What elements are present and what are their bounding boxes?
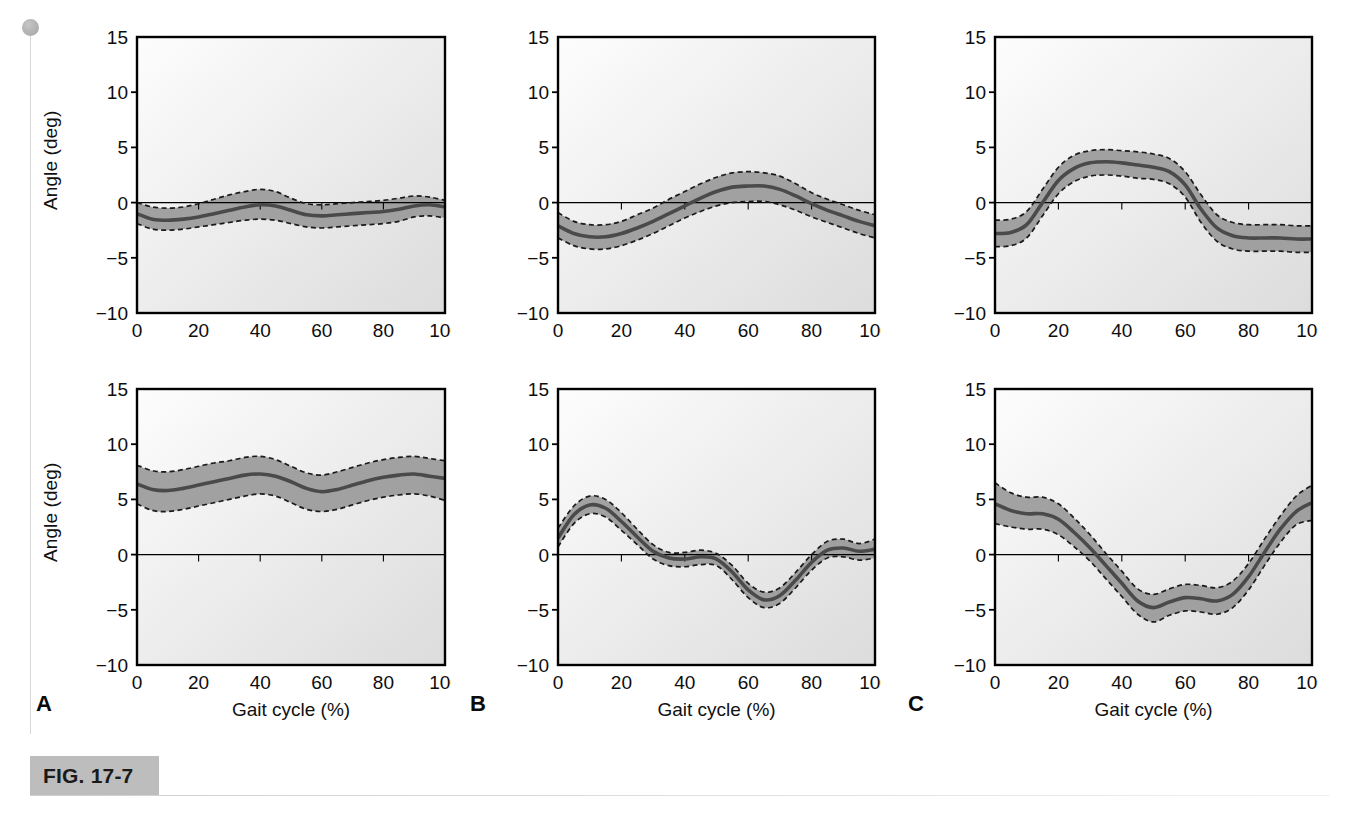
x-tick-label: 60	[738, 672, 759, 693]
panel-b-top: −10−5051015020406080100	[506, 31, 881, 347]
x-tick-label: 0	[553, 672, 564, 693]
panel-letter-a: A	[36, 691, 52, 717]
plot-panel-b-bottom: −10−5051015020406080100	[506, 383, 881, 699]
footer-rule	[30, 795, 1330, 796]
x-tick-label: 80	[373, 320, 394, 341]
y-tick-label: −5	[527, 600, 549, 621]
x-tick-label: 60	[738, 320, 759, 341]
x-tick-label: 40	[674, 320, 695, 341]
y-tick-label: 0	[975, 545, 986, 566]
x-tick-label: 40	[250, 672, 271, 693]
plot-panel-a-top: −10−5051015020406080100	[85, 31, 451, 347]
y-axis-label-bottom: Angle (deg)	[40, 463, 62, 562]
x-tick-label: 60	[311, 320, 332, 341]
y-tick-label: 10	[528, 434, 549, 455]
y-tick-label: −5	[964, 600, 986, 621]
y-tick-label: −10	[96, 655, 128, 676]
y-tick-label: 10	[965, 82, 986, 103]
x-tick-label: 20	[611, 320, 632, 341]
x-tick-label: 100	[1296, 672, 1318, 693]
x-tick-label: 100	[859, 672, 881, 693]
x-tick-label: 40	[1111, 320, 1132, 341]
y-tick-label: 5	[117, 489, 128, 510]
y-tick-label: −10	[517, 303, 549, 324]
panel-a-bottom: −10−5051015020406080100	[85, 383, 451, 699]
y-tick-label: 5	[117, 137, 128, 158]
y-tick-label: −5	[106, 248, 128, 269]
x-tick-label: 60	[1175, 320, 1196, 341]
plot-panel-a-bottom: −10−5051015020406080100	[85, 383, 451, 699]
page-margin-rule	[30, 34, 31, 734]
y-tick-label: 15	[528, 383, 549, 400]
x-tick-label: 80	[373, 672, 394, 693]
y-tick-label: 10	[107, 82, 128, 103]
figure-number-text: FIG. 17-7	[30, 764, 134, 788]
page-margin-dot	[22, 19, 39, 36]
plot-background	[137, 389, 445, 665]
y-tick-label: −10	[954, 303, 986, 324]
x-tick-label: 20	[1048, 672, 1069, 693]
x-tick-label: 80	[1238, 320, 1259, 341]
x-tick-label: 0	[132, 320, 143, 341]
x-axis-label-b: Gait cycle (%)	[558, 699, 875, 721]
x-tick-label: 40	[250, 320, 271, 341]
x-tick-label: 60	[1175, 672, 1196, 693]
y-tick-label: 15	[107, 383, 128, 400]
y-tick-label: 0	[117, 193, 128, 214]
y-tick-label: 0	[538, 545, 549, 566]
y-tick-label: 15	[965, 31, 986, 48]
x-tick-label: 80	[1238, 672, 1259, 693]
y-axis-label-top: Angle (deg)	[40, 111, 62, 210]
x-tick-label: 0	[553, 320, 564, 341]
plot-background	[137, 37, 445, 313]
plot-background	[558, 389, 875, 665]
x-tick-label: 20	[611, 672, 632, 693]
x-tick-label: 0	[132, 672, 143, 693]
x-tick-label: 60	[311, 672, 332, 693]
x-tick-label: 0	[990, 320, 1001, 341]
y-tick-label: −5	[527, 248, 549, 269]
plot-panel-c-top: −10−5051015020406080100	[943, 31, 1318, 347]
y-tick-label: 15	[107, 31, 128, 48]
y-tick-label: 0	[538, 193, 549, 214]
figure-root: −10−5051015020406080100 −10−505101502040…	[0, 0, 1361, 821]
x-tick-label: 80	[801, 320, 822, 341]
panel-b-bottom: −10−5051015020406080100	[506, 383, 881, 699]
plot-background	[558, 37, 875, 313]
x-tick-label: 100	[859, 320, 881, 341]
x-tick-label: 20	[188, 672, 209, 693]
y-tick-label: −5	[106, 600, 128, 621]
x-tick-label: 100	[429, 320, 451, 341]
y-tick-label: 5	[975, 489, 986, 510]
x-axis-label-c: Gait cycle (%)	[995, 699, 1312, 721]
plot-panel-c-bottom: −10−5051015020406080100	[943, 383, 1318, 699]
y-tick-label: 10	[107, 434, 128, 455]
y-tick-label: 0	[117, 545, 128, 566]
y-tick-label: 15	[528, 31, 549, 48]
x-tick-label: 80	[801, 672, 822, 693]
y-tick-label: 5	[975, 137, 986, 158]
x-tick-label: 40	[674, 672, 695, 693]
x-tick-label: 100	[1296, 320, 1318, 341]
plot-panel-b-top: −10−5051015020406080100	[506, 31, 881, 347]
panel-letter-c: C	[908, 691, 924, 717]
y-tick-label: −10	[954, 655, 986, 676]
x-tick-label: 100	[429, 672, 451, 693]
y-tick-label: 5	[538, 489, 549, 510]
x-axis-label-a: Gait cycle (%)	[137, 699, 445, 721]
panel-a-top: −10−5051015020406080100	[85, 31, 451, 347]
y-tick-label: −10	[517, 655, 549, 676]
x-tick-label: 20	[188, 320, 209, 341]
y-tick-label: 0	[975, 193, 986, 214]
y-tick-label: −5	[964, 248, 986, 269]
figure-number-tag: FIG. 17-7	[30, 756, 159, 795]
x-tick-label: 0	[990, 672, 1001, 693]
y-tick-label: 10	[965, 434, 986, 455]
y-tick-label: 15	[965, 383, 986, 400]
panel-c-bottom: −10−5051015020406080100	[943, 383, 1318, 699]
y-tick-label: 10	[528, 82, 549, 103]
x-tick-label: 40	[1111, 672, 1132, 693]
panel-c-top: −10−5051015020406080100	[943, 31, 1318, 347]
x-tick-label: 20	[1048, 320, 1069, 341]
y-tick-label: 5	[538, 137, 549, 158]
